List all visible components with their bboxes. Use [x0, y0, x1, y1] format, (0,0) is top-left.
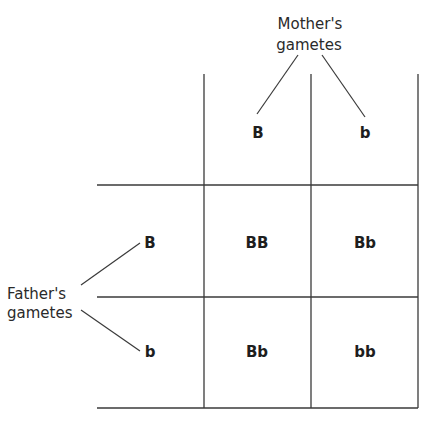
- father-pointer-line-lower: [81, 310, 140, 351]
- father-gametes-label-line2: gametes: [7, 304, 73, 322]
- punnett-square-diagram: Mother's gametes B b Father's gametes B …: [0, 0, 428, 427]
- mother-allele-1: B: [252, 124, 263, 142]
- father-allele-2: b: [145, 343, 156, 361]
- mother-allele-2: b: [360, 124, 371, 142]
- father-allele-1: B: [144, 234, 155, 252]
- cell-row1-col2: Bb: [354, 234, 376, 252]
- cell-row1-col1: BB: [246, 234, 269, 252]
- mother-gametes-label-line2: gametes: [276, 36, 342, 54]
- father-pointer-line-upper: [81, 243, 140, 285]
- mother-pointer-line-left: [257, 55, 298, 114]
- mother-gametes-label-line1: Mother's: [278, 15, 343, 33]
- mother-pointer-line-right: [322, 55, 365, 117]
- cell-row2-col1: Bb: [246, 343, 268, 361]
- father-gametes-label-line1: Father's: [7, 285, 66, 303]
- cell-row2-col2: bb: [354, 343, 376, 361]
